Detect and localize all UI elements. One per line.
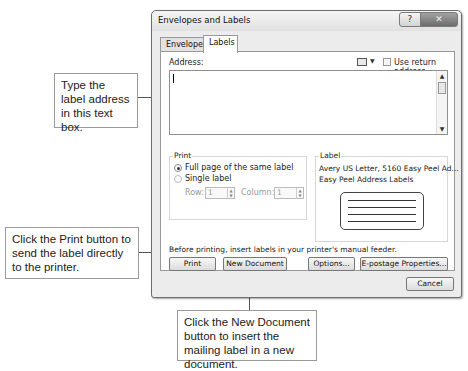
full-page-label: Full page of the same label: [185, 163, 293, 172]
label-group-label: Label: [319, 151, 341, 160]
label-product-line1: Avery US Letter, 5160 Easy Peel Ad...: [319, 164, 459, 173]
title-bar[interactable]: Envelopes and Labels ? ✕: [152, 11, 461, 31]
row-spinner-arrows[interactable]: ▲▼: [227, 188, 234, 198]
column-label: Column:: [241, 188, 274, 197]
tab-envelopes[interactable]: Envelopes: [160, 37, 204, 52]
full-page-radio[interactable]: [174, 164, 182, 172]
envelopes-and-labels-dialog: Envelopes and Labels ? ✕ Envelopes Label…: [151, 10, 462, 298]
dropdown-arrow-icon: ▼: [370, 57, 375, 64]
label-preview-icon: [340, 192, 424, 230]
text-caret: [173, 74, 174, 83]
options-button[interactable]: Options...: [308, 257, 355, 271]
scroll-down-icon[interactable]: ▼: [437, 124, 447, 134]
print-group-label: Print: [173, 151, 192, 160]
row-spinner[interactable]: 1 ▲▼: [205, 187, 235, 199]
callout-new-document: Click the New Document button to insert …: [177, 310, 317, 361]
callout-print: Click the Print button to send the label…: [5, 227, 139, 279]
help-button[interactable]: ?: [399, 12, 421, 27]
dialog-title: Envelopes and Labels: [158, 15, 250, 25]
help-icon: ?: [408, 14, 413, 24]
callout-address-text: Type the label address in this text box.: [61, 79, 129, 133]
cancel-button[interactable]: Cancel: [406, 277, 454, 291]
manual-feeder-note: Before printing, insert labels in your p…: [169, 245, 397, 254]
address-scrollbar[interactable]: ▲ ▼: [436, 71, 447, 134]
scroll-thumb[interactable]: [438, 82, 446, 94]
callout-print-text: Click the Print button to send the label…: [12, 233, 131, 273]
callout-address: Type the label address in this text box.: [54, 73, 138, 128]
address-textbox[interactable]: ▲ ▼: [169, 70, 448, 135]
single-label-label: Single label: [185, 174, 231, 183]
print-button[interactable]: Print: [169, 257, 216, 271]
close-button[interactable]: ✕: [420, 12, 458, 27]
labels-tab-panel: Address: ▼ Use return address ▲ ▼ Print …: [160, 51, 455, 271]
column-spinner-arrows[interactable]: ▲▼: [296, 188, 303, 198]
epostage-properties-button[interactable]: E-postage Properties...: [360, 257, 448, 271]
tab-labels[interactable]: Labels: [203, 35, 238, 53]
address-book-icon: [357, 58, 367, 66]
label-group[interactable]: Label Avery US Letter, 5160 Easy Peel Ad…: [315, 156, 448, 242]
row-label: Row:: [185, 188, 204, 197]
scroll-up-icon[interactable]: ▲: [437, 71, 447, 81]
callout-new-document-text: Click the New Document button to insert …: [184, 316, 310, 370]
single-label-radio[interactable]: [174, 175, 182, 183]
address-book-button[interactable]: ▼: [357, 57, 377, 67]
use-return-address-checkbox[interactable]: [383, 58, 391, 66]
column-spinner[interactable]: 1 ▲▼: [274, 187, 304, 199]
new-document-button[interactable]: New Document: [223, 257, 287, 271]
address-label: Address:: [169, 58, 204, 67]
close-icon: ✕: [435, 14, 443, 24]
print-group: Print Full page of the same label Single…: [169, 156, 307, 220]
label-product-line2: Easy Peel Address Labels: [319, 175, 413, 184]
